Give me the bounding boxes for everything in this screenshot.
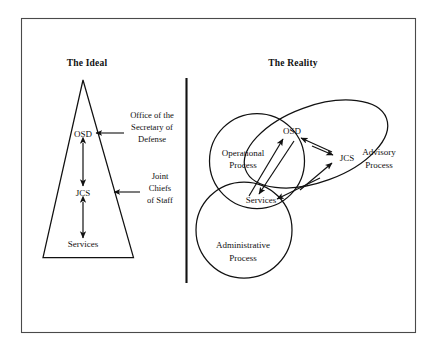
reality-label-advisory-line2: Process [365,160,393,170]
diagram-canvas: The Ideal OSD JCS Services Office of the… [0,0,438,350]
ideal-node-services: Services [68,239,99,249]
reality-label-operational-line1: Operational [222,148,265,158]
reality-label-advisory-line1: Advisory [362,147,396,157]
reality-label-operational-line2: Process [229,160,257,170]
ideal-annotation-osd-line1: Office of the [130,110,174,120]
reality-label-administrative-line1: Administrative [216,240,270,250]
ideal-node-jcs: JCS [76,188,91,198]
reality-link-jcs-osd [301,138,332,152]
reality-link-services-jcs [300,163,332,190]
reality-region-advisory [233,83,400,206]
ideal-annotation-osd-line3: Defense [138,134,166,144]
ideal-annotation-jcs-line2: Chiefs [149,183,172,193]
panel-title-ideal: The Ideal [67,58,108,68]
reality-label-administrative-line2: Process [229,253,257,263]
ideal-annotation-osd-line2: Secretary of [131,122,173,132]
figure-container: The Ideal OSD JCS Services Office of the… [0,0,438,350]
ideal-annotation-jcs-line1: Joint [152,171,169,181]
ideal-annotation-jcs-line3: of Staff [147,195,173,205]
reality-node-services: Services [246,195,277,205]
reality-region-administrative [196,182,292,278]
panel-title-reality: The Reality [268,58,317,68]
reality-node-osd: OSD [283,126,302,136]
reality-node-jcs: JCS [340,153,355,163]
ideal-node-osd: OSD [74,129,93,139]
ideal-triangle [43,80,134,258]
